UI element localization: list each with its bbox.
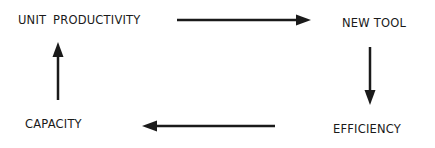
arrow-right-icon <box>177 15 311 26</box>
arrow-left-icon <box>142 121 275 132</box>
arrow-up-icon <box>53 42 64 100</box>
arrow-down-icon <box>365 47 376 105</box>
arrows-layer <box>0 0 435 148</box>
